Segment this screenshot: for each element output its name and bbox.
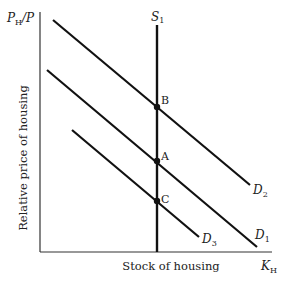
- housing-market-diagram: B A C S1 D2 D1 D3 PH/P Relative price of…: [0, 0, 295, 285]
- x-axis-title: Stock of housing: [122, 259, 220, 273]
- d3-label: D3: [201, 232, 217, 248]
- point-a-label: A: [160, 150, 170, 163]
- point-c: [154, 198, 160, 204]
- x-axis-symbol: KH: [260, 259, 277, 275]
- point-b-label: B: [161, 94, 169, 107]
- demand-curve-d1: [47, 70, 257, 247]
- d1-label: D1: [254, 228, 270, 244]
- point-b: [154, 104, 160, 110]
- point-c-label: C: [161, 193, 169, 206]
- supply-label: S1: [151, 10, 164, 25]
- d2-label: D2: [252, 183, 268, 199]
- demand-curve-d3: [72, 130, 199, 237]
- point-a: [154, 158, 160, 164]
- y-axis-title: Relative price of housing: [16, 85, 30, 231]
- y-axis-symbol: PH/P: [6, 11, 35, 27]
- demand-curve-d2: [53, 20, 250, 185]
